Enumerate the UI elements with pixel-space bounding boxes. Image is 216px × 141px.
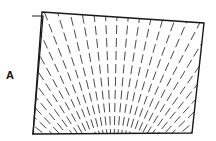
ray-line bbox=[0, 70, 113, 140]
ray-line bbox=[113, 66, 216, 140]
ray-line bbox=[113, 31, 216, 141]
ray-line bbox=[0, 57, 113, 140]
ray-line bbox=[0, 23, 113, 140]
ray-line bbox=[113, 0, 205, 140]
ray-line bbox=[16, 0, 113, 140]
radiating-lines-diagram bbox=[0, 0, 216, 140]
ray-line bbox=[113, 0, 118, 140]
ray-line bbox=[113, 53, 216, 140]
ray-line bbox=[59, 0, 113, 140]
ray-line bbox=[3, 0, 113, 140]
ray-line bbox=[103, 0, 113, 140]
ray-line bbox=[44, 0, 113, 140]
ray-line bbox=[74, 0, 114, 140]
ray-line bbox=[0, 83, 113, 140]
ray-line bbox=[113, 0, 148, 140]
ray-line bbox=[113, 0, 163, 140]
